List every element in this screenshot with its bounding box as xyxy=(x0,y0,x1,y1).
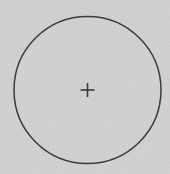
diagram-vector-layer xyxy=(0,0,170,174)
figure-canvas xyxy=(0,0,170,174)
center-crosshair-icon xyxy=(81,83,95,97)
